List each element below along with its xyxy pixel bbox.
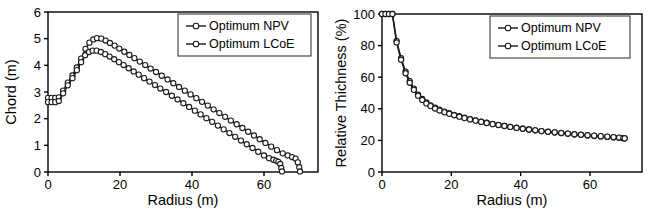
data-point-marker [605,134,610,139]
data-point-marker [274,148,279,153]
data-point-marker [159,73,164,78]
y-tick-label: 20 [361,133,375,148]
data-point-marker [217,110,222,115]
data-point-marker [390,11,395,16]
chart-panel-relative-thickness: 0204060801000204060Radius (m)Relative Th… [330,0,655,220]
data-point-marker [411,87,416,92]
x-axis-title: Radius (m) [477,192,548,208]
relative-thickness-chart-svg: 0204060801000204060Radius (m)Relative Th… [330,0,655,220]
data-point-marker [147,79,152,84]
data-point-marker [457,114,462,119]
data-point-marker [246,129,251,134]
data-point-marker [192,108,197,113]
data-point-marker [297,169,302,174]
y-tick-label: 1 [34,138,41,153]
data-point-marker [165,77,170,82]
x-tick-label: 60 [257,177,271,192]
data-point-marker [65,83,70,88]
data-point-marker [585,133,590,138]
data-point-marker [142,76,147,81]
y-tick-label: 0 [34,165,41,180]
legend-label: Optimum LCoE [209,37,294,51]
data-point-marker [79,60,84,65]
data-point-marker [578,132,583,137]
legend-label: Optimum LCoE [521,39,606,53]
legend-label: Optimum NPV [521,21,602,35]
data-point-marker [452,113,457,118]
data-point-marker [211,107,216,112]
data-point-marker [227,130,232,135]
data-point-marker [598,134,603,139]
data-point-marker [508,124,513,129]
x-tick-label: 0 [378,177,385,192]
data-point-marker [559,130,564,135]
y-tick-label: 4 [34,58,41,73]
data-point-marker [215,123,220,128]
data-point-marker [121,62,126,67]
data-point-marker [143,62,148,67]
data-point-marker [403,71,408,76]
data-point-marker [61,91,66,96]
data-point-marker [233,134,238,139]
data-point-marker [244,142,249,147]
data-point-marker [467,117,472,122]
y-tick-label: 40 [361,101,375,116]
data-point-marker [592,133,597,138]
data-point-marker [279,169,284,174]
data-point-marker [234,122,239,127]
data-point-marker [261,153,266,158]
x-tick-label: 40 [513,177,527,192]
data-point-marker [407,80,412,85]
data-point-marker [205,103,210,108]
legend-sample-marker [505,25,511,31]
x-tick-label: 20 [113,177,127,192]
data-point-marker [415,93,420,98]
data-point-marker [269,144,274,149]
data-point-marker [199,99,204,104]
data-point-marker [188,92,193,97]
data-point-marker [257,137,262,142]
data-point-marker [126,66,131,71]
data-point-marker [204,116,209,121]
data-point-marker [181,101,186,106]
data-point-marker [256,149,261,154]
data-point-marker [175,97,180,102]
data-point-marker [514,125,519,130]
data-point-marker [153,69,158,74]
data-point-marker [462,116,467,121]
data-point-marker [490,122,495,127]
data-point-marker [70,76,75,81]
y-axis-title: Chord (m) [3,59,19,124]
data-point-marker [194,96,199,101]
data-point-marker [187,104,192,109]
data-point-marker [148,66,153,71]
x-tick-label: 20 [444,177,458,192]
data-point-marker [127,52,132,57]
series-optimum-lcoe [45,48,284,174]
data-point-marker [526,127,531,132]
data-point-marker [240,125,245,130]
data-point-marker [210,119,215,124]
data-point-marker [171,81,176,86]
data-point-marker [533,128,538,133]
y-axis-title: Relative Thichness (%) [333,19,349,168]
legend-label: Optimum NPV [209,19,290,33]
data-point-marker [263,140,268,145]
data-point-marker [473,118,478,123]
y-tick-label: 100 [353,7,375,22]
legend-sample-marker [505,43,511,49]
data-point-marker [228,118,233,123]
data-point-marker [182,88,187,93]
data-point-marker [131,69,136,74]
data-point-marker [622,136,627,141]
data-point-marker [611,134,616,139]
chart-panel-chord: 01234560204060Radius (m)Chord (m)Optimum… [0,0,330,220]
data-point-marker [56,98,61,103]
data-point-marker [158,86,163,91]
data-point-marker [176,84,181,89]
figure-container: 01234560204060Radius (m)Chord (m)Optimum… [0,0,655,220]
y-tick-label: 6 [34,5,41,20]
data-point-marker [132,56,137,61]
data-point-marker [238,138,243,143]
data-point-marker [545,129,550,134]
